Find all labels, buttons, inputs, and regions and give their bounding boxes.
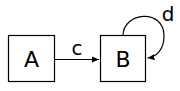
node-b[interactable]: B [101, 36, 146, 82]
edge-b-self-loop-label: d [162, 2, 175, 26]
edge-a-to-b-label: c [72, 36, 83, 60]
edge-a-to-b[interactable]: c [55, 36, 100, 60]
node-b-label: B [115, 47, 130, 72]
node-a[interactable]: A [9, 36, 55, 82]
node-a-label: A [24, 47, 39, 72]
state-diagram: A B c d [0, 0, 180, 91]
